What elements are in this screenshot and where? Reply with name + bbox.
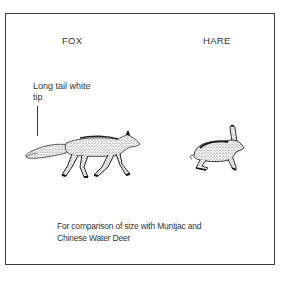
tail-annotation-line1: Long tail white	[33, 81, 91, 92]
hare-illustration	[186, 122, 250, 178]
fox-label: FOX	[62, 35, 82, 46]
hare-label: HARE	[203, 35, 231, 46]
fox-illustration	[22, 127, 147, 183]
comparison-caption: For comparison of size with Muntjac and …	[57, 220, 201, 244]
caption-line1: For comparison of size with Muntjac and	[57, 220, 201, 232]
tail-annotation: Long tail white tip	[33, 81, 91, 103]
tail-annotation-line2: tip	[33, 92, 91, 103]
caption-line2: Chinese Water Deer	[57, 232, 201, 244]
